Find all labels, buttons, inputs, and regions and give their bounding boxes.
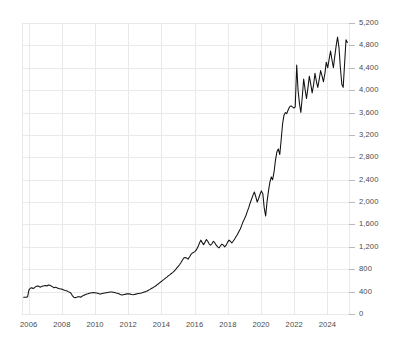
- y-axis-tick-label: 3,200: [359, 130, 379, 139]
- series-line-index-level: [24, 37, 348, 298]
- x-axis-tick-label: 2016: [186, 320, 203, 329]
- y-axis-tick-label: 1,600: [359, 219, 379, 228]
- y-axis-tick-label: 4,400: [359, 63, 379, 72]
- x-axis-tick-label: 2012: [120, 320, 137, 329]
- line-chart-figure: 04008001,2001,6002,0002,4002,8003,2003,6…: [0, 0, 401, 351]
- y-axis-tick-label: 800: [359, 264, 372, 273]
- vertical-gridlines: [23, 23, 350, 314]
- y-axis-tick-label: 2,400: [359, 175, 379, 184]
- y-axis-tick-label: 5,200: [359, 18, 379, 27]
- y-axis-tick-label: 400: [359, 287, 372, 296]
- y-axis-tick-label: 3,600: [359, 108, 379, 117]
- x-axis-tick-labels: 2006200820102012201420162018202020222024: [20, 320, 336, 329]
- horizontal-gridlines: [22, 24, 349, 315]
- x-axis-tick-label: 2018: [219, 320, 236, 329]
- data-series-group: [24, 37, 348, 298]
- x-axis-tick-label: 2010: [86, 320, 103, 329]
- y-axis-tick-label: 0: [359, 309, 363, 318]
- y-axis-tick-label: 1,200: [359, 242, 379, 251]
- x-axis-tick-label: 2024: [319, 320, 336, 329]
- x-axis-tick-label: 2022: [286, 320, 303, 329]
- y-axis-tick-label: 4,800: [359, 40, 379, 49]
- x-axis-tick-label: 2014: [153, 320, 170, 329]
- y-axis-tick-labels: 04008001,2001,6002,0002,4002,8003,2003,6…: [359, 18, 379, 318]
- chart-canvas: 04008001,2001,6002,0002,4002,8003,2003,6…: [0, 0, 401, 351]
- y-axis-tick-label: 2,000: [359, 197, 379, 206]
- y-axis-tick-label: 2,800: [359, 152, 379, 161]
- y-axis-tick-label: 4,000: [359, 85, 379, 94]
- x-axis-tick-label: 2006: [20, 320, 37, 329]
- x-axis-tick-label: 2020: [252, 320, 269, 329]
- x-axis-tick-label: 2008: [53, 320, 70, 329]
